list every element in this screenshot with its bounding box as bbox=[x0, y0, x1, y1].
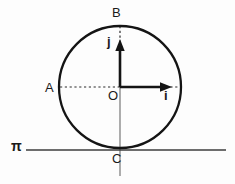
label-origin-o: O bbox=[108, 89, 118, 102]
label-point-b: B bbox=[112, 6, 121, 19]
label-vector-j: j bbox=[107, 35, 111, 48]
label-plane-pi: π bbox=[11, 139, 22, 153]
label-point-c: C bbox=[112, 152, 121, 165]
label-vector-i: i bbox=[164, 89, 168, 102]
geometry-figure: B A O C i j π bbox=[0, 0, 235, 184]
label-point-a: A bbox=[45, 81, 54, 94]
vector-j-arrow bbox=[115, 39, 124, 87]
